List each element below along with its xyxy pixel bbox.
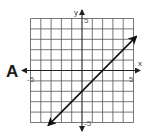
coordinate-plane: x y -5 5 5 -5 — [0, 0, 149, 136]
axes — [22, 10, 140, 131]
y-axis-label: y — [74, 8, 78, 17]
y-tick-max: 5 — [84, 16, 89, 25]
y-tick-min: -5 — [84, 119, 92, 128]
x-tick-min: -5 — [27, 75, 35, 84]
x-tick-max: 5 — [129, 75, 134, 84]
x-axis-label: x — [138, 59, 142, 68]
